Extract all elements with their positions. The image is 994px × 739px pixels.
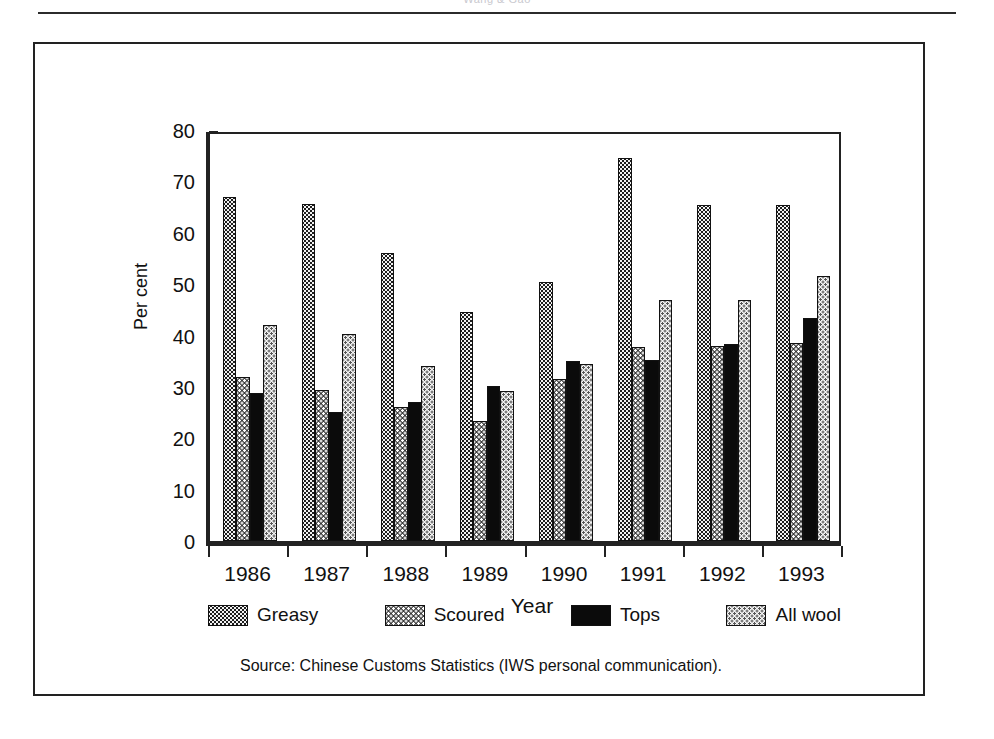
bar-scoured-1992 bbox=[711, 346, 725, 541]
legend-item-tops: Tops bbox=[571, 604, 660, 626]
legend-swatch-icon bbox=[571, 605, 611, 626]
bar-all-wool-1989 bbox=[500, 391, 514, 541]
y-tick-label: 80 bbox=[45, 121, 195, 141]
bar-all-wool-1987 bbox=[342, 334, 356, 541]
bar-all-wool-1993 bbox=[817, 276, 831, 541]
bar-all-wool-1988 bbox=[421, 366, 435, 541]
bar-all-wool-1986 bbox=[263, 325, 277, 541]
bar-greasy-1988 bbox=[381, 253, 395, 541]
plot-area bbox=[208, 132, 841, 543]
bar-greasy-1991 bbox=[618, 158, 632, 541]
bar-tops-1988 bbox=[408, 402, 422, 541]
bar-tops-1993 bbox=[803, 318, 817, 541]
bar-tops-1987 bbox=[329, 412, 343, 541]
source-note: Source: Chinese Customs Statistics (IWS … bbox=[35, 657, 927, 675]
y-tick-label: 60 bbox=[45, 224, 195, 244]
x-tick-label: 1993 bbox=[761, 562, 841, 586]
y-tick-label: 70 bbox=[45, 172, 195, 192]
page-header-strip: Wang & Gao bbox=[0, 0, 994, 12]
legend-swatch-icon bbox=[385, 605, 425, 626]
y-tick-label: 50 bbox=[45, 275, 195, 295]
legend-label: Scoured bbox=[434, 604, 505, 626]
bar-tops-1990 bbox=[566, 361, 580, 541]
figure-frame: Per cent 01020304050607080 1986198719881… bbox=[33, 42, 925, 696]
bar-tops-1992 bbox=[724, 344, 738, 541]
page-horizontal-rule bbox=[38, 12, 956, 14]
x-tick-label: 1986 bbox=[208, 562, 288, 586]
bar-greasy-1990 bbox=[539, 282, 553, 541]
bar-all-wool-1990 bbox=[580, 364, 594, 541]
bar-all-wool-1991 bbox=[659, 300, 673, 541]
y-tick-label: 10 bbox=[45, 481, 195, 501]
y-tick-label: 0 bbox=[45, 532, 195, 552]
x-tick-label: 1990 bbox=[524, 562, 604, 586]
bar-scoured-1991 bbox=[632, 347, 646, 541]
x-tick-label: 1991 bbox=[603, 562, 683, 586]
bar-greasy-1989 bbox=[460, 312, 474, 541]
x-tick-mark bbox=[683, 546, 685, 557]
x-tick-mark bbox=[841, 546, 843, 557]
bar-scoured-1993 bbox=[790, 343, 804, 541]
x-tick-mark bbox=[525, 546, 527, 557]
legend-swatch-icon bbox=[726, 605, 766, 626]
legend-swatch-icon bbox=[208, 605, 248, 626]
page-header-text: Wang & Gao bbox=[0, 0, 994, 5]
y-tick-label: 40 bbox=[45, 327, 195, 347]
legend-item-all-wool: All wool bbox=[726, 604, 840, 626]
y-tick-label: 30 bbox=[45, 378, 195, 398]
legend-label: All wool bbox=[775, 604, 840, 626]
x-tick-mark bbox=[208, 546, 210, 557]
x-tick-mark bbox=[366, 546, 368, 557]
y-tick-label: 20 bbox=[45, 429, 195, 449]
x-tick-label: 1988 bbox=[366, 562, 446, 586]
legend-item-scoured: Scoured bbox=[385, 604, 505, 626]
x-tick-label: 1987 bbox=[287, 562, 367, 586]
bar-scoured-1986 bbox=[236, 377, 250, 541]
legend-label: Tops bbox=[620, 604, 660, 626]
bar-greasy-1993 bbox=[776, 205, 790, 542]
bar-tops-1991 bbox=[645, 360, 659, 541]
bar-greasy-1986 bbox=[223, 197, 237, 541]
x-tick-label: 1989 bbox=[445, 562, 525, 586]
chart-legend: GreasyScouredTopsAll wool bbox=[208, 604, 841, 626]
bar-scoured-1989 bbox=[473, 421, 487, 541]
bar-greasy-1992 bbox=[697, 205, 711, 542]
bar-tops-1986 bbox=[250, 393, 264, 541]
bar-scoured-1990 bbox=[553, 379, 567, 541]
bar-tops-1989 bbox=[487, 386, 501, 541]
y-axis-title: Per cent bbox=[131, 263, 152, 330]
x-tick-mark bbox=[287, 546, 289, 557]
x-tick-mark bbox=[762, 546, 764, 557]
bar-scoured-1987 bbox=[315, 390, 329, 541]
bar-all-wool-1992 bbox=[738, 300, 752, 541]
x-tick-label: 1992 bbox=[682, 562, 762, 586]
x-tick-mark bbox=[604, 546, 606, 557]
bar-greasy-1987 bbox=[302, 204, 316, 541]
x-tick-mark bbox=[445, 546, 447, 557]
legend-label: Greasy bbox=[257, 604, 318, 626]
bar-scoured-1988 bbox=[394, 407, 408, 541]
legend-item-greasy: Greasy bbox=[208, 604, 318, 626]
